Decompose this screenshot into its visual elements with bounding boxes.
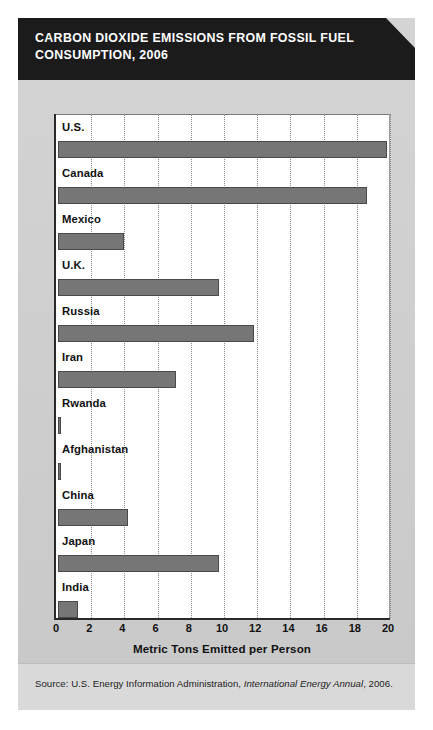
bar-row: Afghanistan [56,436,390,482]
x-tick-12: 12 [249,622,261,634]
bar-label-india: India [62,581,89,593]
bar-mexico [58,233,124,250]
bar-label-rwanda: Rwanda [62,397,106,409]
chart-plot-area: U.S.CanadaMexicoU.K.RussiaIranRwandaAfgh… [54,114,390,620]
x-axis-ticks: 02468101214161820 [54,622,390,640]
x-tick-8: 8 [186,622,192,634]
x-tick-20: 20 [382,622,394,634]
x-tick-2: 2 [86,622,92,634]
source-prefix: Source: U.S. Energy Information Administ… [35,678,244,689]
source-footer: Source: U.S. Energy Information Administ… [18,663,415,710]
bar-label-japan: Japan [62,535,95,547]
bar-iran [58,371,176,388]
x-tick-0: 0 [53,622,59,634]
bar-row: Iran [56,344,390,390]
x-tick-6: 6 [153,622,159,634]
bar-rwanda [58,417,61,434]
x-tick-16: 16 [315,622,327,634]
x-tick-14: 14 [282,622,294,634]
gridline-20 [390,114,392,618]
bar-row: Rwanda [56,390,390,436]
bar-japan [58,555,219,572]
bar-row: Japan [56,528,390,574]
bar-china [58,509,128,526]
x-tick-10: 10 [216,622,228,634]
bar-row: U.S. [56,114,390,160]
source-suffix: , 2006. [363,678,393,689]
bar-label-china: China [62,489,94,501]
plot-frame: U.S.CanadaMexicoU.K.RussiaIranRwandaAfgh… [54,114,390,620]
chart-title-banner: CARBON DIOXIDE EMISSIONS FROM FOSSIL FUE… [18,18,415,80]
bar-label-mexico: Mexico [62,213,101,225]
bar-label-russia: Russia [62,305,100,317]
bar-row: Canada [56,160,390,206]
bar-row: Russia [56,298,390,344]
bar-label-uk: U.K. [62,259,85,271]
bar-label-afghanistan: Afghanistan [62,443,128,455]
bar-row: China [56,482,390,528]
bar-label-iran: Iran [62,351,83,363]
source-text: Source: U.S. Energy Information Administ… [35,678,393,689]
page-title: CARBON DIOXIDE EMISSIONS FROM FOSSIL FUE… [35,30,365,63]
x-tick-18: 18 [349,622,361,634]
bar-afghanistan [58,463,61,480]
x-axis-label: Metric Tons Emitted per Person [54,642,390,655]
bar-russia [58,325,254,342]
source-publication: International Energy Annual [244,678,363,689]
bar-us [58,141,387,158]
bar-row: India [56,574,390,620]
bar-label-us: U.S. [62,121,84,133]
bar-uk [58,279,219,296]
x-tick-4: 4 [119,622,125,634]
bar-label-canada: Canada [62,167,103,179]
bar-india [58,601,78,618]
bar-row: Mexico [56,206,390,252]
bar-row: U.K. [56,252,390,298]
bar-canada [58,187,367,204]
figure-panel: CARBON DIOXIDE EMISSIONS FROM FOSSIL FUE… [18,18,415,710]
